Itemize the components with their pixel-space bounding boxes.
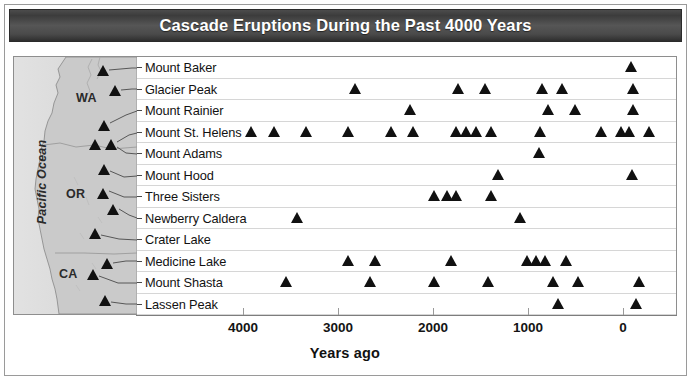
figure-title-bar: Cascade Eruptions During the Past 4000 Y…: [9, 9, 682, 42]
eruption-marker-triangle: [485, 190, 497, 201]
eruption-row: Medicine Lake: [137, 251, 676, 273]
row-label-mount-baker: Mount Baker: [145, 60, 216, 75]
eruption-marker-triangle: [556, 83, 568, 94]
eruption-marker-triangle: [595, 126, 607, 137]
x-axis-tick-label: 1000: [513, 320, 543, 335]
map-volcano-triangle: [89, 228, 101, 239]
map-volcano-triangle: [98, 120, 110, 131]
row-label-glacier-peak: Glacier Peak: [145, 81, 217, 96]
row-leader-line: [137, 153, 142, 154]
map-volcano-triangle: [97, 188, 109, 199]
eruption-marker-triangle: [479, 83, 491, 94]
map-volcano-triangle: [109, 85, 121, 96]
eruption-marker-triangle: [547, 276, 559, 287]
eruption-marker-triangle: [630, 298, 642, 309]
eruption-marker-triangle: [428, 276, 440, 287]
eruption-marker-triangle: [482, 276, 494, 287]
row-leader-line: [137, 175, 142, 176]
eruption-marker-triangle: [533, 147, 545, 158]
row-leader-line: [137, 67, 142, 68]
eruption-marker-triangle: [404, 104, 416, 115]
eruption-marker-triangle: [492, 169, 504, 180]
eruption-marker-triangle: [280, 276, 292, 287]
eruption-marker-triangle: [485, 126, 497, 137]
eruption-marker-triangle: [291, 212, 303, 223]
x-axis-tick: [433, 308, 434, 315]
map-volcano-triangle: [107, 204, 119, 215]
row-label-lassen-peak: Lassen Peak: [145, 296, 218, 311]
map-volcano-triangle: [97, 65, 109, 76]
x-axis-tick: [338, 308, 339, 315]
eruption-marker-triangle: [539, 255, 551, 266]
eruption-marker-triangle: [569, 104, 581, 115]
eruption-marker-triangle: [552, 298, 564, 309]
eruption-marker-triangle: [627, 83, 639, 94]
map-volcano-triangle: [99, 295, 111, 306]
eruption-marker-triangle: [385, 126, 397, 137]
eruption-marker-triangle: [342, 255, 354, 266]
row-leader-line: [137, 218, 142, 219]
row-label-mount-st-helens: Mount St. Helens: [145, 124, 242, 139]
eruption-row: Glacier Peak: [137, 79, 676, 101]
eruption-timeline-figure: Cascade Eruptions During the Past 4000 Y…: [0, 0, 691, 380]
eruption-marker-triangle: [560, 255, 572, 266]
row-label-three-sisters: Three Sisters: [145, 189, 220, 204]
eruption-marker-triangle: [445, 255, 457, 266]
eruption-marker-triangle: [300, 126, 312, 137]
eruption-marker-triangle: [626, 169, 638, 180]
x-axis: 40003000200010000: [136, 315, 677, 316]
map-volcano-triangle: [105, 139, 117, 150]
eruption-marker-triangle: [623, 126, 635, 137]
row-leader-line: [137, 196, 142, 197]
x-axis-title: Years ago: [13, 345, 677, 361]
eruption-marker-triangle: [542, 104, 554, 115]
page-title: Cascade Eruptions During the Past 4000 Y…: [159, 16, 531, 35]
eruption-row: Crater Lake: [137, 229, 676, 251]
eruption-rows: Mount BakerGlacier PeakMount RainierMoun…: [137, 57, 676, 314]
eruption-marker-triangle: [245, 126, 257, 137]
map-volcano-triangle: [89, 139, 101, 150]
row-label-mount-hood: Mount Hood: [145, 167, 214, 182]
row-leader-line: [137, 304, 142, 305]
row-label-mount-rainier: Mount Rainier: [145, 103, 223, 118]
x-axis-tick: [623, 308, 624, 315]
eruption-row: Mount Rainier: [137, 100, 676, 122]
eruption-marker-triangle: [369, 255, 381, 266]
eruption-marker-triangle: [514, 212, 526, 223]
eruption-marker-triangle: [470, 126, 482, 137]
map-volcano-triangle: [98, 164, 110, 175]
eruption-row: Mount Shasta: [137, 272, 676, 294]
eruption-marker-triangle: [450, 190, 462, 201]
eruption-marker-triangle: [342, 126, 354, 137]
row-leader-line: [137, 282, 142, 283]
eruption-marker-triangle: [572, 276, 584, 287]
row-leader-line: [137, 110, 142, 111]
eruption-marker-triangle: [625, 61, 637, 72]
row-label-mount-adams: Mount Adams: [145, 146, 222, 161]
eruption-row: Three Sisters: [137, 186, 676, 208]
eruption-marker-triangle: [268, 126, 280, 137]
eruption-marker-triangle: [452, 83, 464, 94]
eruption-marker-triangle: [364, 276, 376, 287]
x-axis-tick: [528, 308, 529, 315]
row-leader-line: [137, 261, 142, 262]
map-volcano-triangle: [101, 258, 113, 269]
eruption-marker-triangle: [534, 126, 546, 137]
eruption-marker-triangle: [536, 83, 548, 94]
pacific-northwest-map: Pacific Ocean WA OR CA: [14, 57, 137, 314]
eruption-marker-triangle: [428, 190, 440, 201]
eruption-row: Mount Adams: [137, 143, 676, 165]
row-label-medicine-lake: Medicine Lake: [145, 253, 226, 268]
x-axis-tick: [243, 308, 244, 315]
row-label-newberry-caldera: Newberry Caldera: [145, 210, 247, 225]
eruption-marker-triangle: [407, 126, 419, 137]
eruption-marker-triangle: [349, 83, 361, 94]
eruption-row: Newberry Caldera: [137, 208, 676, 230]
row-leader-line: [137, 239, 142, 240]
eruption-row: Lassen Peak: [137, 294, 676, 316]
x-axis-tick-label: 2000: [418, 320, 448, 335]
eruption-marker-triangle: [627, 104, 639, 115]
x-axis-tick-label: 0: [619, 320, 627, 335]
row-leader-line: [137, 132, 142, 133]
eruption-marker-triangle: [643, 126, 655, 137]
